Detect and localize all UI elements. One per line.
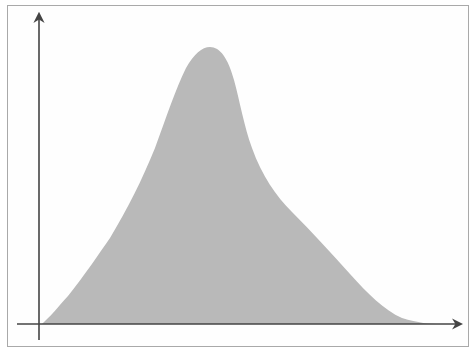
distribution-chart: [0, 0, 476, 355]
distribution-area: [42, 47, 440, 324]
